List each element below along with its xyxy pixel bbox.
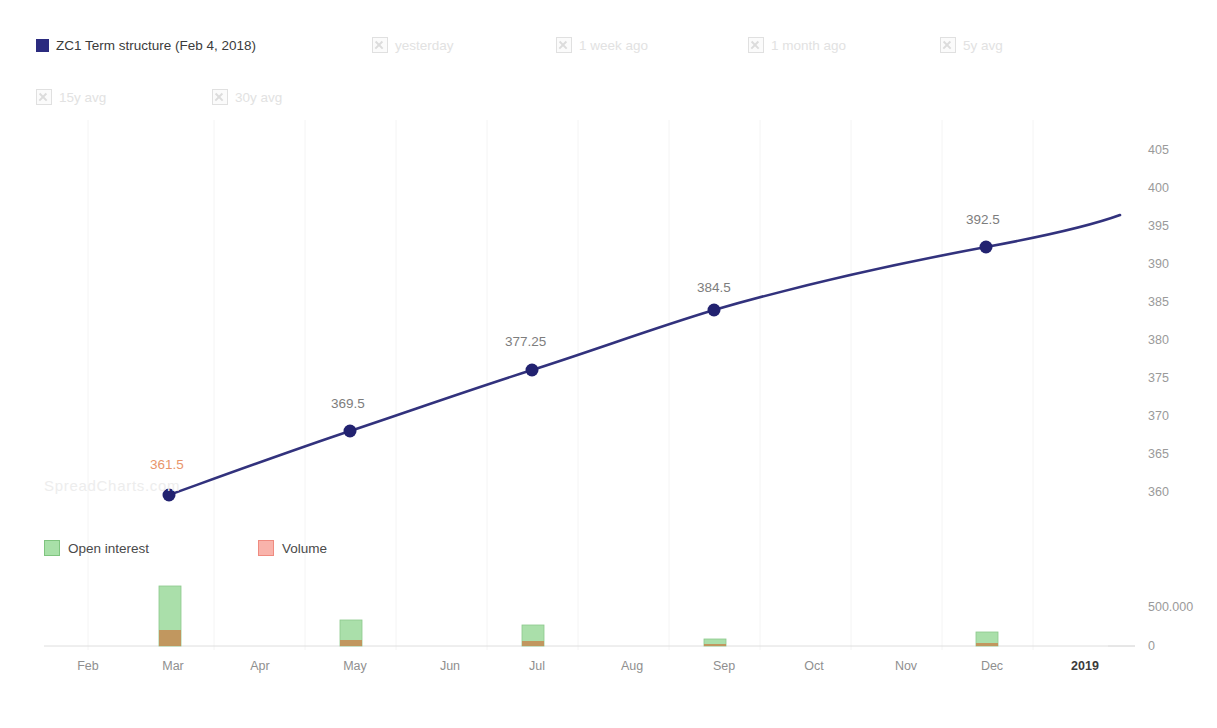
y-axis-tick: 385 bbox=[1148, 295, 1169, 309]
x-axis-tick-dec: Dec bbox=[957, 659, 1027, 673]
data-label-377-25: 377.25 bbox=[505, 334, 546, 349]
x-axis-tick-aug: Aug bbox=[597, 659, 667, 673]
chart-page: ZC1 Term structure (Feb 4, 2018) yesterd… bbox=[0, 0, 1217, 728]
legend-label: Volume bbox=[282, 541, 327, 556]
x-axis-tick-2019: 2019 bbox=[1050, 659, 1120, 673]
bar-volume bbox=[159, 630, 181, 646]
y-axis-tick: 395 bbox=[1148, 219, 1169, 233]
data-label-384-5: 384.5 bbox=[697, 280, 731, 295]
y-axis-tick: 405 bbox=[1148, 143, 1169, 157]
data-label-369-5: 369.5 bbox=[331, 396, 365, 411]
x-axis-tick-nov: Nov bbox=[871, 659, 941, 673]
data-label-392-5: 392.5 bbox=[966, 212, 1000, 227]
bar-volume bbox=[522, 641, 544, 646]
x-axis-tick-oct: Oct bbox=[779, 659, 849, 673]
x-axis-tick-feb: Feb bbox=[53, 659, 123, 673]
watermark: SpreadCharts.com bbox=[44, 477, 180, 494]
legend-item-volume[interactable]: Volume bbox=[258, 535, 327, 561]
volume-swatch-icon bbox=[258, 540, 274, 556]
y-axis-tick: 365 bbox=[1148, 447, 1169, 461]
legend-item-open-interest[interactable]: Open interest bbox=[44, 535, 149, 561]
y-axis-tick: 380 bbox=[1148, 333, 1169, 347]
y-axis-tick: 375 bbox=[1148, 371, 1169, 385]
volume-axis-tick-0: 0 bbox=[1148, 639, 1155, 653]
term-structure-line bbox=[169, 215, 1120, 495]
x-axis-tick-apr: Apr bbox=[225, 659, 295, 673]
y-axis-tick: 370 bbox=[1148, 409, 1169, 423]
x-axis-tick-sep: Sep bbox=[689, 659, 759, 673]
gridlines-vertical bbox=[88, 120, 1033, 650]
y-axis-tick: 360 bbox=[1148, 485, 1169, 499]
y-axis-tick: 390 bbox=[1148, 257, 1169, 271]
x-axis-tick-may: May bbox=[320, 659, 390, 673]
y-axis-tick: 400 bbox=[1148, 181, 1169, 195]
volume-axis-tick-500000: 500.000 bbox=[1148, 600, 1193, 614]
x-axis-tick-mar: Mar bbox=[138, 659, 208, 673]
open-interest-swatch-icon bbox=[44, 540, 60, 556]
x-axis-tick-jul: Jul bbox=[502, 659, 572, 673]
chart-svg bbox=[0, 0, 1217, 728]
bar-volume bbox=[704, 644, 726, 646]
bar-volume bbox=[976, 643, 998, 646]
data-label-361-5: 361.5 bbox=[150, 457, 184, 472]
legend-label: Open interest bbox=[68, 541, 149, 556]
plot-area: 405 400 395 390 385 380 375 370 365 360 … bbox=[0, 0, 1217, 728]
bar-volume bbox=[340, 640, 362, 646]
x-axis-tick-jun: Jun bbox=[415, 659, 485, 673]
